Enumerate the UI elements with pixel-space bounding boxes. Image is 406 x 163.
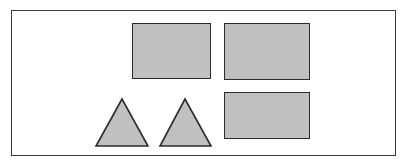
figure-canvas	[0, 0, 406, 163]
triangle-right-svg	[156, 95, 216, 151]
rectangle-top-left	[132, 23, 211, 79]
triangle-left-svg	[92, 95, 152, 151]
triangle-right-polygon	[160, 99, 211, 146]
rectangle-bottom-right	[224, 92, 310, 139]
triangle-right	[156, 95, 216, 151]
triangle-left-polygon	[96, 99, 148, 146]
rectangle-top-right	[224, 23, 310, 80]
triangle-left	[92, 95, 152, 151]
